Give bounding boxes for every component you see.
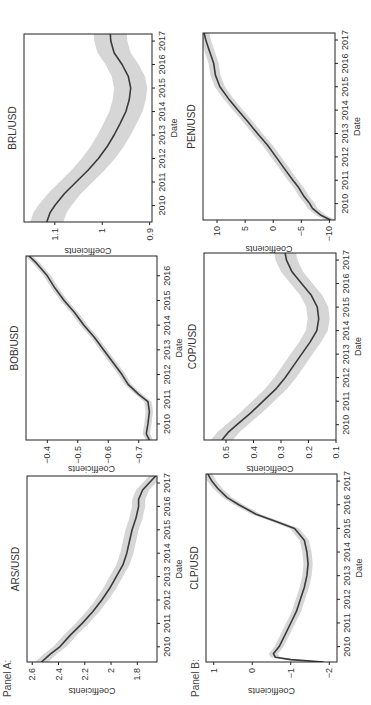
chart-title: COP/USD: [187, 324, 198, 370]
y-tick-label: −2: [324, 668, 334, 678]
y-axis-label: Coefficients: [64, 246, 111, 256]
y-tick-label: −0.7: [134, 446, 144, 464]
y-tick-label: 0.2: [304, 446, 314, 459]
x-tick-label: 2011: [157, 172, 167, 191]
y-tick-label: 1: [209, 668, 219, 673]
y-tick-label: 0: [247, 668, 257, 673]
y-tick-label: −0.5: [73, 446, 83, 464]
confidence-band: [25, 256, 153, 440]
x-tick-label: 2010: [157, 196, 167, 216]
x-tick-label: 2017: [342, 471, 352, 491]
coefficient-line: [204, 33, 330, 220]
plot-frame: [203, 33, 335, 220]
x-tick-label: 2017: [341, 250, 351, 270]
x-tick-label: 2013: [162, 340, 172, 360]
y-tick-label: 1.8: [132, 668, 142, 681]
y-axis-label: Coefficients: [68, 464, 115, 474]
y-axis-label: Coefficients: [68, 686, 115, 696]
x-tick-label: 2011: [162, 390, 172, 409]
x-tick-label: 2012: [340, 147, 350, 167]
plot-frame: [206, 474, 337, 662]
confidence-band: [211, 253, 330, 440]
x-tick-label: 2014: [341, 321, 351, 341]
x-axis-label: Date: [352, 117, 362, 136]
chart-ars-usd: 201020112012201320142015201620171.822.22…: [27, 476, 157, 662]
y-tick-label: 0.9: [145, 228, 155, 241]
coefficient-line: [41, 476, 155, 662]
y-tick-label: 2: [106, 668, 116, 673]
x-axis-label: Date: [169, 118, 179, 137]
x-tick-label: 2017: [162, 473, 172, 493]
y-tick-label: 5: [240, 226, 250, 231]
confidence-band: [203, 474, 328, 662]
chart-brl-usd: 201020112012201320142015201620170.911.1B…: [24, 34, 152, 222]
y-tick-label: 0.1: [331, 446, 341, 459]
y-tick-label: 1.1: [50, 228, 60, 241]
x-tick-label: 2015: [157, 78, 167, 98]
chart-title: ARS/USD: [10, 547, 21, 591]
x-tick-label: 2016: [342, 495, 352, 515]
x-tick-label: 2011: [162, 614, 172, 633]
x-tick-label: 2011: [342, 613, 352, 632]
x-tick-label: 2014: [157, 102, 167, 122]
panel-b-label: Panel B:: [190, 659, 201, 697]
x-tick-label: 2015: [162, 290, 172, 310]
x-tick-label: 2016: [162, 496, 172, 516]
y-tick-label: 0.3: [276, 446, 286, 459]
chart-title: BRL/USD: [7, 106, 18, 149]
y-tick-label: 0: [268, 226, 278, 231]
x-axis-label: Date: [174, 559, 184, 578]
y-tick-label: 0.5: [221, 446, 231, 459]
x-tick-label: 2010: [162, 414, 172, 434]
x-axis-label: Date: [353, 337, 363, 356]
x-tick-label: 2017: [340, 30, 350, 50]
chart-bob-usd: 2010201120122013201420152016−0.7−0.6−0.5…: [26, 256, 157, 440]
y-tick-label: 2.2: [80, 668, 90, 681]
x-tick-label: 2015: [341, 297, 351, 317]
x-tick-label: 2014: [342, 542, 352, 562]
panel-a-label: Panel A:: [2, 660, 13, 697]
x-tick-label: 2013: [342, 566, 352, 586]
figure: Panel A: Panel B: 2010201120122013201420…: [0, 0, 371, 705]
x-tick-label: 2012: [341, 368, 351, 388]
coefficient-line: [29, 256, 149, 440]
x-axis-label: Date: [174, 338, 184, 357]
plot-frame: [26, 256, 157, 440]
x-tick-label: 2015: [162, 520, 172, 540]
x-tick-label: 2010: [342, 637, 352, 657]
x-tick-label: 2016: [157, 55, 167, 75]
x-tick-label: 2016: [340, 53, 350, 73]
y-axis-label: Coefficients: [246, 464, 293, 474]
y-tick-label: −0.4: [42, 446, 52, 464]
x-tick-label: 2013: [157, 125, 167, 145]
x-axis-label: Date: [354, 558, 364, 577]
x-tick-label: 2013: [340, 123, 350, 143]
x-tick-label: 2010: [340, 194, 350, 214]
y-tick-label: 2.6: [27, 668, 37, 681]
y-tick-label: 1: [97, 228, 107, 233]
x-tick-label: 2017: [157, 31, 167, 51]
y-tick-label: 2.4: [54, 668, 64, 681]
y-tick-label: −10: [324, 226, 334, 241]
x-tick-label: 2015: [340, 77, 350, 97]
confidence-band: [199, 33, 336, 220]
chart-title: PEN/USD: [186, 104, 197, 148]
chart-cop-usd: 201020112012201320142015201620170.10.20.…: [204, 253, 336, 440]
chart-title: BOB/USD: [9, 325, 20, 370]
x-tick-label: 2012: [162, 590, 172, 610]
y-tick-label: 0.4: [249, 446, 259, 459]
y-axis-label: Coefficients: [248, 686, 295, 696]
y-tick-label: −1: [286, 668, 296, 678]
y-tick-label: 10: [212, 226, 222, 236]
confidence-band: [30, 34, 147, 222]
x-tick-label: 2012: [162, 365, 172, 385]
x-tick-label: 2012: [157, 149, 167, 169]
chart-title: CLP/USD: [189, 546, 200, 589]
confidence-band: [35, 476, 162, 662]
chart-clp-usd: 20102011201220132014201520162017−2−101CL…: [206, 474, 337, 662]
x-tick-label: 2016: [162, 266, 172, 286]
x-tick-label: 2012: [342, 589, 352, 609]
x-tick-label: 2013: [341, 344, 351, 364]
y-tick-label: −5: [296, 226, 306, 236]
y-axis-label: Coefficients: [245, 244, 292, 254]
